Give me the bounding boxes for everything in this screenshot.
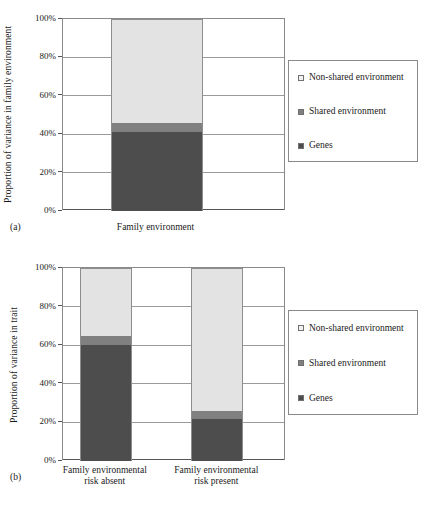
y-tick-label: 20%	[40, 167, 57, 176]
panel-b-legend: Non-shared environmentShared environment…	[288, 310, 418, 415]
legend-swatch-icon	[298, 109, 304, 115]
legend-swatch-icon	[298, 360, 304, 366]
y-tick-label: 80%	[40, 301, 57, 310]
bar-segment-shared-environment	[111, 123, 203, 133]
bar-segment-shared-environment	[80, 336, 132, 346]
panel-a-y-axis-title: Proportion of variance in family environ…	[4, 14, 14, 214]
legend-label: Shared environment	[309, 107, 386, 117]
panel-b-x-tick-label: Family environmental risk present	[153, 465, 281, 487]
y-tick-mark	[58, 94, 62, 95]
panel-a-x-axis-label: Family environment	[62, 222, 249, 233]
stacked-bar	[191, 268, 243, 461]
panel-b-y-axis-title: Proportion of variance in trait	[10, 280, 20, 450]
bar-segment-shared-environment	[191, 411, 243, 419]
bar-segment-non-shared-environment	[111, 19, 203, 123]
figure-panel-a: Proportion of variance in family environ…	[0, 0, 424, 250]
panel-a-plot-area	[62, 18, 285, 210]
stacked-bar	[111, 19, 203, 211]
legend-item: Shared environment	[298, 107, 386, 117]
panel-a-letter: (a)	[10, 222, 21, 232]
y-tick-label: 20%	[40, 417, 57, 426]
y-tick-mark	[58, 210, 62, 211]
y-tick-mark	[58, 133, 62, 134]
legend-label: Genes	[309, 394, 333, 404]
legend-swatch-icon	[298, 75, 304, 81]
legend-item: Genes	[298, 394, 333, 404]
y-tick-label: 100%	[35, 263, 56, 272]
y-tick-mark	[58, 382, 62, 383]
y-tick-label: 100%	[35, 14, 56, 23]
legend-swatch-icon	[298, 143, 304, 149]
y-tick-mark	[58, 56, 62, 57]
bar-segment-genes	[191, 419, 243, 461]
bar-segment-non-shared-environment	[191, 268, 243, 411]
panel-b-plot-area	[62, 267, 285, 460]
legend-label: Genes	[309, 141, 333, 151]
legend-label: Non-shared environment	[309, 324, 404, 334]
legend-item: Non-shared environment	[298, 73, 404, 83]
legend-swatch-icon	[298, 325, 304, 331]
legend-label: Shared environment	[309, 359, 386, 369]
panel-b-x-tick-label: Family environmental risk absent	[41, 465, 169, 487]
y-tick-mark	[58, 171, 62, 172]
y-tick-mark	[58, 344, 62, 345]
legend-item: Non-shared environment	[298, 324, 404, 334]
bar-segment-genes	[111, 132, 203, 211]
panel-b-letter: (b)	[10, 472, 21, 482]
y-tick-label: 0%	[44, 206, 56, 215]
stacked-bar	[80, 268, 132, 461]
y-tick-mark	[58, 18, 62, 19]
legend-item: Genes	[298, 141, 333, 151]
y-tick-mark	[58, 305, 62, 306]
figure-panel-b: Proportion of variance in trait (b) Non-…	[0, 250, 424, 512]
y-tick-mark	[58, 460, 62, 461]
panel-a-legend: Non-shared environmentShared environment…	[288, 60, 418, 162]
y-tick-label: 40%	[40, 129, 57, 138]
legend-swatch-icon	[298, 395, 304, 401]
legend-label: Non-shared environment	[309, 73, 404, 83]
y-tick-label: 40%	[40, 378, 57, 387]
y-tick-mark	[58, 267, 62, 268]
legend-item: Shared environment	[298, 359, 386, 369]
y-tick-label: 80%	[40, 52, 57, 61]
y-tick-label: 0%	[44, 456, 56, 465]
bar-segment-non-shared-environment	[80, 268, 132, 336]
bar-segment-genes	[80, 345, 132, 461]
y-tick-label: 60%	[40, 340, 57, 349]
y-tick-label: 60%	[40, 90, 57, 99]
y-tick-mark	[58, 421, 62, 422]
